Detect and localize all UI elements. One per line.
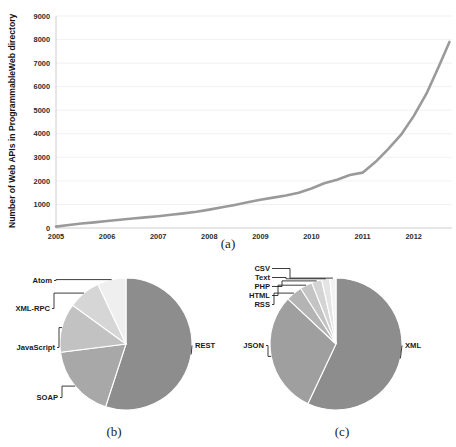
pie-label-json: JSON [243, 341, 264, 350]
pie-label-javascript: JavaScript [17, 343, 56, 352]
leader-line-csv [272, 269, 333, 279]
pie-label-xml-rpc: XML-RPC [15, 304, 50, 313]
leader-line-soap [60, 386, 75, 397]
pie-c-slices-group [270, 278, 402, 410]
y-tick-label: 5000 [34, 106, 50, 115]
pie-label-soap: SOAP [36, 393, 58, 402]
y-tick-label: 4000 [34, 129, 50, 138]
pie-label-xml: XML [405, 341, 421, 350]
pie-b-svg: RESTSOAPJavaScriptXML-RPCAtom [0, 258, 228, 426]
pie-label-text: Text [255, 273, 271, 282]
pie-b-slices-group [60, 278, 192, 410]
pie-label-rest: REST [195, 341, 216, 350]
subfigure-caption-a: (a) [0, 236, 456, 252]
gridlines-group [56, 16, 452, 204]
leader-line-atom [54, 280, 112, 281]
y-tick-label: 6000 [34, 82, 50, 91]
line-chart-panel: 0100020003000400050006000700080009000 20… [0, 0, 456, 252]
pie-chart-panel-c: XMLJSONRSSHTMLPHPTextCSV [228, 258, 456, 426]
figure-container: 0100020003000400050006000700080009000 20… [0, 0, 456, 447]
y-tick-label: 1000 [34, 200, 50, 209]
pie-c-svg: XMLJSONRSSHTMLPHPTextCSV [228, 258, 456, 426]
data-series-line [56, 42, 449, 227]
y-tick-label: 8000 [34, 35, 50, 44]
y-axis-title: Number of Web APIs in ProgrammableWeb di… [7, 14, 17, 228]
y-tick-label: 3000 [34, 153, 50, 162]
pie-label-atom: Atom [33, 276, 53, 285]
y-tick-label: 9000 [34, 12, 50, 21]
y-tick-label: 2000 [34, 177, 50, 186]
pie-label-php: PHP [254, 282, 270, 291]
y-tick-labels-group: 0100020003000400050006000700080009000 [34, 12, 50, 233]
subfigure-caption-c: (c) [228, 424, 456, 440]
pie-label-rss: RSS [254, 300, 270, 309]
line-chart-svg: 0100020003000400050006000700080009000 20… [0, 0, 456, 252]
pie-label-html: HTML [249, 291, 270, 300]
pie-chart-panel-b: RESTSOAPJavaScriptXML-RPCAtom [0, 258, 228, 426]
pie-label-csv: CSV [254, 264, 271, 273]
subfigure-caption-b: (b) [0, 424, 228, 440]
y-tick-label: 7000 [34, 59, 50, 68]
